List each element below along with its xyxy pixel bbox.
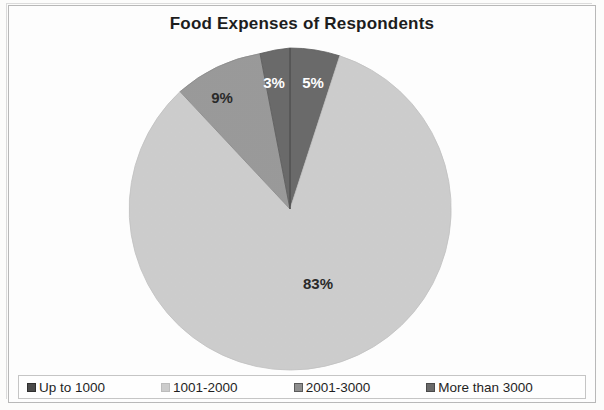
legend-label-up-to-1000: Up to 1000 [39, 380, 105, 395]
legend-swatch-icon-more-than-3000 [426, 383, 435, 392]
legend-item-up-to-1000[interactable]: Up to 1000 [27, 380, 105, 395]
legend-swatch-icon-2001-3000 [294, 383, 303, 392]
legend-item-2001-3000[interactable]: 2001-3000 [294, 380, 371, 395]
legend-item-1001-2000[interactable]: 1001-2000 [161, 380, 238, 395]
legend-label-2001-3000: 2001-3000 [306, 380, 371, 395]
legend-swatch-icon-1001-2000 [161, 383, 170, 392]
pie-chart: 5% 83% 9% 3% [0, 0, 604, 410]
legend-label-1001-2000: 1001-2000 [173, 380, 238, 395]
slice-label-up-to-1000: 5% [302, 74, 324, 91]
slice-label-more-than-3000: 3% [263, 74, 285, 91]
scanned-page: Food Expenses of Respondents 5% 83% 9% 3… [0, 0, 604, 410]
slice-label-2001-3000: 9% [211, 89, 233, 106]
legend-swatch-icon-up-to-1000 [27, 383, 36, 392]
chart-legend: Up to 1000 1001-2000 2001-3000 More than… [18, 375, 586, 399]
legend-item-more-than-3000[interactable]: More than 3000 [426, 380, 533, 395]
slice-label-1001-2000: 83% [303, 275, 333, 292]
legend-label-more-than-3000: More than 3000 [438, 380, 533, 395]
